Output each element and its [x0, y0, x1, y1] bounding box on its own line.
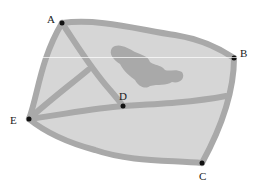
node-A-dot	[60, 21, 65, 26]
scan-line	[0, 57, 265, 58]
map-diagram	[0, 0, 265, 193]
node-D-label: D	[119, 91, 127, 102]
node-C-label: C	[199, 171, 206, 182]
node-B-label: B	[240, 48, 247, 59]
node-E-dot	[27, 117, 32, 122]
node-E-label: E	[10, 115, 17, 126]
node-A-label: A	[47, 14, 55, 25]
node-D-dot	[121, 104, 126, 109]
node-C-dot	[200, 161, 205, 166]
